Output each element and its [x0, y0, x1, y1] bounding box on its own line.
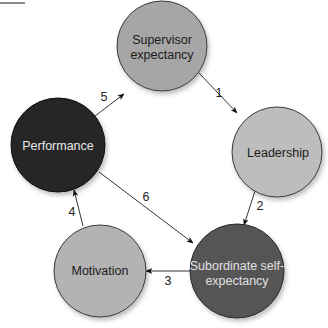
node-label: Leadership	[247, 146, 309, 160]
expectancy-cycle-diagram: 1 2 3 4 5 6 Supervisor expectancy Leader…	[0, 0, 328, 328]
node-subordinate-self-expectancy: Subordinate self- expectancy	[190, 224, 285, 318]
edge-5-arrow	[95, 94, 124, 116]
node-motivation: Motivation	[54, 225, 146, 317]
node-supervisor-expectancy: Supervisor expectancy	[117, 1, 207, 91]
edge-label-2: 2	[257, 199, 264, 213]
node-label-line2: expectancy	[130, 48, 194, 62]
node-leadership: Leadership	[232, 107, 322, 197]
edge-label-4: 4	[69, 205, 76, 219]
node-label-line1: Subordinate self-	[190, 259, 285, 273]
edge-label-1: 1	[216, 86, 223, 100]
node-label: Motivation	[72, 264, 129, 278]
node-label: Performance	[22, 139, 94, 153]
edge-label-6: 6	[143, 190, 150, 204]
node-label-line1: Supervisor	[132, 33, 192, 47]
edge-label-5: 5	[101, 90, 108, 104]
edge-label-3: 3	[165, 274, 172, 288]
edge-2-arrow	[244, 191, 255, 225]
node-performance: Performance	[11, 98, 105, 192]
node-label-line2: expectancy	[205, 274, 269, 288]
